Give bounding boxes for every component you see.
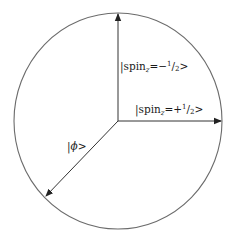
ket-prefix: |spin [135, 103, 161, 115]
ket-suffix: > [78, 140, 87, 152]
phi-symbol: ϕ [71, 140, 78, 152]
ket-prefix: |spin [120, 60, 146, 72]
phi-arrow [46, 121, 118, 196]
ket-suffix: > [195, 103, 204, 115]
equals-sign: =− [149, 60, 167, 72]
spin-z-plus-half-label: |spinz=+1/2> [135, 104, 203, 117]
state-space-diagram [0, 0, 235, 239]
phi-state-label: |ϕ> [67, 141, 87, 152]
ket-suffix: > [180, 60, 189, 72]
spin-z-minus-half-label: |spinz=−1/2> [120, 61, 188, 74]
equals-sign: =+ [164, 103, 182, 115]
